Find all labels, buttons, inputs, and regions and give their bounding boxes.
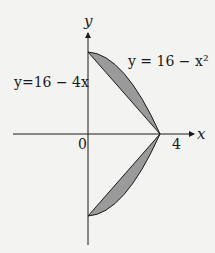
region-diagram: y x 0 4 y=16 − 4x y = 16 − x² [0, 0, 215, 253]
y-axis-label: y [83, 12, 93, 30]
origin-label: 0 [78, 136, 87, 152]
x-tick-label-4b: 4 [172, 136, 181, 152]
x-axis-label: x [197, 125, 206, 143]
parabola-equation-label: y = 16 − x² [127, 53, 209, 69]
line-equation-label: y=16 − 4x [13, 74, 89, 90]
lower-shaded-region [88, 134, 160, 216]
